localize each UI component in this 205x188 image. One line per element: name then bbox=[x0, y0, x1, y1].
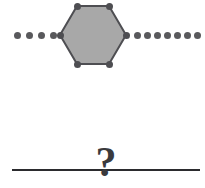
dotted-line-dot bbox=[134, 32, 141, 39]
hexagon-vertex-dot bbox=[57, 32, 64, 39]
dotted-line-dot bbox=[154, 32, 161, 39]
dotted-line-dot bbox=[164, 32, 171, 39]
hexagon-shape-group bbox=[58, 2, 128, 68]
dotted-line-dot bbox=[144, 32, 151, 39]
bottom-row-solid-line-with-question: ? bbox=[0, 130, 205, 188]
dotted-line-dot bbox=[38, 32, 45, 39]
top-row-dotted-line-with-hexagon bbox=[0, 0, 205, 72]
question-mark-glyph: ? bbox=[93, 140, 119, 184]
hexagon-vertex-dot bbox=[106, 61, 113, 68]
hexagon-vertex-dot bbox=[74, 3, 81, 10]
dotted-line-dot bbox=[50, 32, 57, 39]
hexagon-vertex-dot bbox=[74, 61, 81, 68]
dotted-line-dot bbox=[174, 32, 181, 39]
puzzle-figure: ? bbox=[0, 0, 205, 188]
dotted-line-dot bbox=[14, 32, 21, 39]
dotted-line-dot bbox=[26, 32, 33, 39]
hexagon-icon bbox=[58, 2, 128, 68]
dotted-line-dot bbox=[194, 32, 201, 39]
dotted-line-dot bbox=[184, 32, 191, 39]
hexagon-vertex-dot bbox=[106, 3, 113, 10]
hexagon-vertex-dot bbox=[123, 32, 130, 39]
